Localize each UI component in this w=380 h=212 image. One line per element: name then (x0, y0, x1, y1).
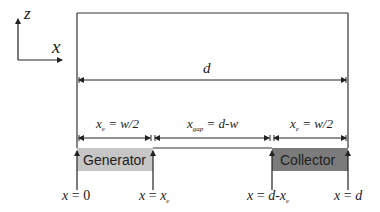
d-label: d (203, 60, 211, 76)
coordinate-axes: z x (18, 4, 62, 60)
position-label-xe: x = xe (138, 188, 169, 205)
total-width-dimension: d (79, 60, 346, 83)
segment-dimensions: xe = w/2 xgap = d-w xe = w/2 (79, 116, 346, 141)
collector-electrode: Collector (272, 148, 348, 171)
position-label-d: x = d (333, 188, 363, 203)
collector-label: Collector (280, 152, 336, 168)
x-axis-label: x (51, 36, 61, 57)
gap-width-label: xgap = d-w (186, 116, 238, 133)
collector-width-label: xe = w/2 (289, 116, 333, 133)
position-labels: x = 0 x = xe x = d-xe x = d (61, 188, 363, 205)
generator-electrode: Generator (77, 148, 153, 171)
z-axis-label: z (23, 4, 31, 23)
position-label-d-xe: x = d-xe (246, 188, 289, 205)
position-label-x0: x = 0 (61, 188, 90, 203)
generator-label: Generator (83, 152, 146, 168)
generator-width-label: xe = w/2 (95, 116, 139, 133)
electrode-geometry-diagram: z x d xe = w/2 xgap = d-w xe = w/2 (0, 0, 380, 212)
